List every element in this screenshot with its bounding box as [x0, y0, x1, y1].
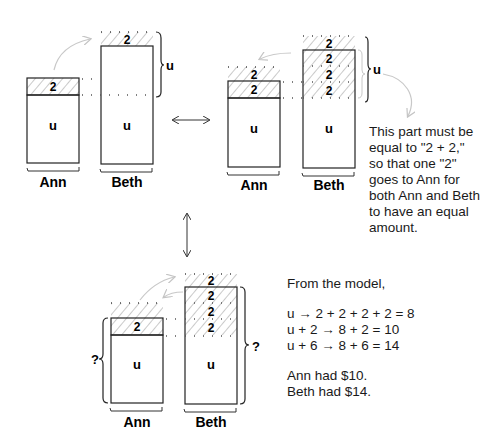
- beth-unit-label: u: [207, 357, 215, 372]
- ann-bar: 2 u Ann: [27, 78, 79, 190]
- ann-unknown-label: ?: [91, 352, 99, 367]
- beth-block-label: 2: [208, 305, 215, 319]
- answer-ann: Ann had $10.: [287, 368, 477, 384]
- panel-3: 2 u Ann ? 2 2 2 2 u Beth ?: [91, 274, 260, 430]
- ann-block-label: 2: [251, 83, 258, 97]
- brace-icon: [365, 37, 371, 102]
- transfer-arrow-icon: [54, 39, 90, 70]
- solution-step: u + 2 → 8 + 2 = 10: [287, 322, 477, 338]
- beth-block-label: 2: [326, 84, 333, 98]
- beth-name-label: Beth: [111, 174, 142, 190]
- ann-name-label: Ann: [123, 414, 150, 430]
- brace-label: u: [166, 58, 174, 73]
- transfer-arrow-icon: [140, 277, 174, 300]
- beth-bar: 2 2 2 2 u Beth ?: [184, 274, 260, 430]
- beth-name-label: Beth: [313, 177, 344, 193]
- brace-icon: [156, 32, 164, 97]
- beth-block-label: 2: [208, 274, 215, 288]
- brace-icon: [240, 287, 249, 404]
- beth-unit-label: u: [123, 118, 131, 133]
- answer-beth: Beth had $14.: [287, 384, 477, 400]
- ann-block-label: 2: [134, 320, 141, 334]
- solution-block: From the model, u → 2 + 2 + 2 + 2 = 8 u …: [287, 276, 477, 400]
- explanation-note: This part must be equal to "2 + 2," so t…: [369, 124, 481, 236]
- beth-block-label: 2: [326, 37, 333, 51]
- transfer-arrow-icon: [260, 53, 291, 59]
- brace-icon: [99, 318, 108, 403]
- solution-intro: From the model,: [287, 276, 477, 292]
- beth-block-label: 2: [208, 321, 215, 335]
- beth-block-label: 2: [326, 52, 333, 66]
- beth-unit-label: u: [325, 121, 333, 136]
- ann-bar: 2 u Ann ?: [91, 303, 163, 430]
- ann-bar: 2 2 u Ann: [227, 67, 280, 193]
- beth-name-label: Beth: [195, 414, 226, 430]
- ann-name-label: Ann: [240, 177, 267, 193]
- ann-name-label: Ann: [39, 174, 66, 190]
- ann-unit-label: u: [133, 357, 141, 372]
- ann-unit-label: u: [49, 118, 57, 133]
- solution-step: u + 6 → 8 + 6 = 14: [287, 338, 477, 354]
- ann-dotted-block-label: 2: [251, 68, 258, 82]
- beth-block-label: 2: [208, 289, 215, 303]
- panel-1: 2 u Ann 2 u Beth u: [27, 32, 174, 190]
- beth-unknown-label: ?: [252, 339, 260, 354]
- brace-label: u: [373, 62, 381, 77]
- solution-step: u → 2 + 2 + 2 + 2 = 8: [287, 306, 477, 322]
- beth-bar: 2 u Beth: [100, 32, 153, 190]
- transfer-arrow-icon: [164, 292, 183, 297]
- beth-block-label: 2: [326, 68, 333, 82]
- beth-bar: 2 2 2 2 u Beth: [302, 36, 355, 193]
- beth-dotted-block-label: 2: [124, 33, 131, 47]
- ann-unit-label: u: [250, 121, 258, 136]
- ann-block-label: 2: [50, 80, 57, 94]
- pointer-arrow-icon: [383, 74, 411, 116]
